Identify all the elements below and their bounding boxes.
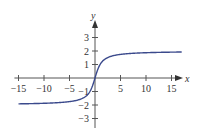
y-axis-arrow-icon	[92, 20, 98, 28]
axes	[14, 20, 183, 128]
x-axis-label: x	[184, 73, 190, 84]
x-tick-label: 15	[167, 83, 177, 94]
y-tick-label: 1	[84, 59, 89, 70]
x-tick-label: −15	[11, 83, 27, 94]
y-tick-label: −2	[78, 100, 89, 111]
x-axis-arrow-icon	[175, 75, 183, 81]
y-tick-label: 2	[84, 46, 89, 57]
chart: −15−10−551015−3−2−1123 x y	[0, 0, 198, 140]
x-tick-label: −10	[36, 83, 52, 94]
y-tick-label: −3	[78, 113, 89, 124]
y-tick-label: 3	[84, 32, 89, 43]
x-tick-label: −5	[64, 83, 75, 94]
x-tick-label: 5	[118, 83, 123, 94]
y-axis-label: y	[90, 10, 96, 21]
x-tick-label: 10	[141, 83, 151, 94]
